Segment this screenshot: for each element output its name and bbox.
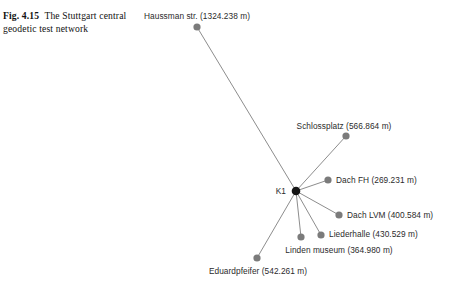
node-label-k1: K1 (276, 186, 286, 196)
network-edge (197, 27, 296, 191)
network-node[interactable] (253, 254, 260, 261)
node-label-eduardpfeifer: Eduardpfeifer (542.261 m) (209, 266, 307, 276)
network-node[interactable] (335, 211, 342, 218)
network-node[interactable] (324, 176, 331, 183)
node-label-liederhalle: Liederhalle (430.529 m) (329, 229, 418, 239)
network-edges (197, 27, 346, 258)
network-node[interactable] (297, 233, 304, 240)
network-node[interactable] (342, 132, 349, 139)
node-label-dach-fh: Dach FH (269.231 m) (336, 175, 417, 185)
node-label-linden-museum: Linden museum (364.980 m) (285, 245, 392, 255)
node-label-schlossplatz: Schlossplatz (566.864 m) (297, 121, 392, 131)
network-node[interactable] (317, 231, 324, 238)
network-diagram (0, 0, 463, 290)
network-node-center[interactable] (292, 187, 301, 196)
network-node[interactable] (193, 23, 200, 30)
node-label-haussman-str: Haussman str. (1324.238 m) (144, 11, 250, 21)
node-label-dach-lvm: Dach LVM (400.584 m) (347, 210, 433, 220)
figure-container: Fig. 4.15 The Stuttgart central geodetic… (0, 0, 463, 290)
